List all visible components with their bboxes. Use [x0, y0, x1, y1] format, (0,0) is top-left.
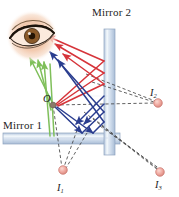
image-point-I1: [59, 166, 68, 175]
image-point-I2: [154, 99, 163, 108]
blue-cross-b: [76, 96, 104, 124]
mirror-2-bar: [104, 29, 115, 155]
diagram-canvas: [0, 0, 179, 197]
blue-seg-1a: [55, 107, 82, 133]
green-direct-rays: [30, 58, 54, 136]
object-point-O: [50, 102, 56, 108]
green-ray-3: [44, 62, 50, 136]
red-incident-2: [57, 73, 104, 105]
image-point-I3: [156, 168, 165, 177]
observer-eye-icon: [6, 10, 58, 62]
ray-diagram-figure: Mirror 2 Mirror 1 O I1 I2 I3: [0, 0, 179, 197]
mirror-1-bar: [3, 133, 120, 144]
